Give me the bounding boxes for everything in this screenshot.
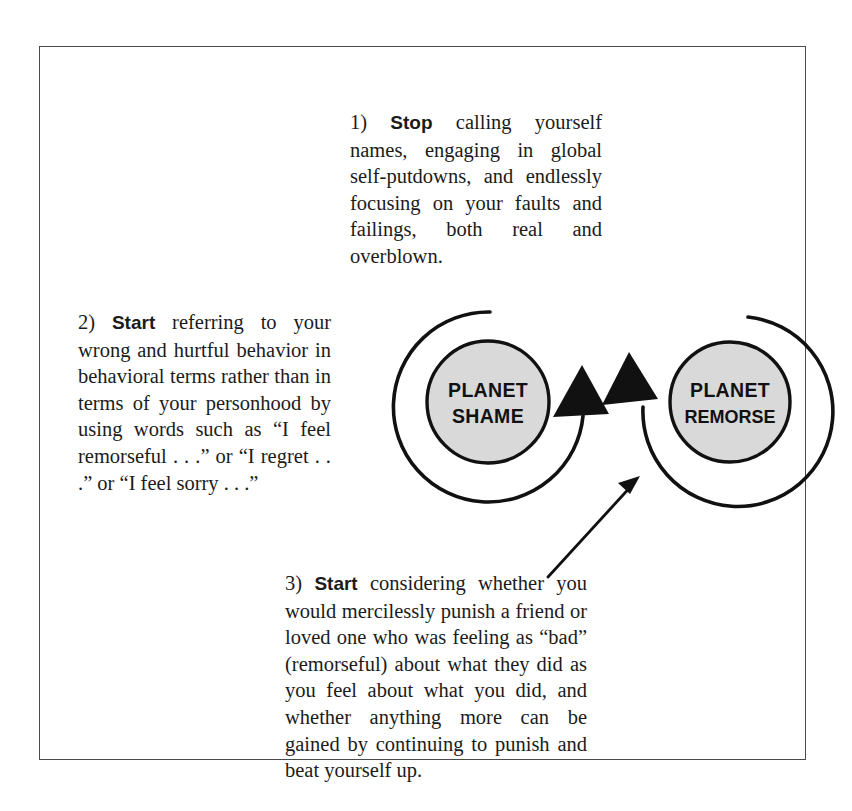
instruction-text-2: referring to your wrong and hurtful beha… — [78, 311, 331, 494]
instruction-block-3: 3) Start considering whether you would m… — [285, 570, 587, 784]
callout-arrow-head — [618, 476, 640, 494]
instruction-number-1: 1) — [350, 111, 367, 133]
planet-shame-label-line2: SHAME — [452, 405, 524, 427]
instruction-keyword-3: Start — [314, 573, 357, 594]
planet-remorse-circle — [670, 342, 790, 462]
figure-border: 1) Stop calling yourself names, engaging… — [39, 46, 806, 760]
planets-diagram: PLANET SHAME PLANET REMORSE — [370, 287, 840, 597]
arrowhead-shame-to-remorse — [553, 365, 609, 417]
callout-arrow-line — [548, 483, 634, 577]
instruction-text-1: calling yourself names, engaging in glob… — [350, 111, 602, 267]
instruction-block-1: 1) Stop calling yourself names, engaging… — [350, 109, 602, 270]
planet-shame-circle — [427, 341, 549, 463]
planet-remorse-label-line2: REMORSE — [684, 407, 775, 427]
instruction-number-3: 3) — [285, 572, 302, 594]
instruction-block-2: 2) Start referring to your wrong and hur… — [78, 309, 331, 496]
instruction-number-2: 2) — [78, 311, 95, 333]
planet-remorse-label-line1: PLANET — [690, 379, 770, 401]
instruction-keyword-1: Stop — [390, 112, 432, 133]
arrowhead-remorse-to-shame — [602, 352, 658, 405]
planet-shame-label-line1: PLANET — [448, 379, 528, 401]
instruction-text-3: considering whether you would mercilessl… — [285, 572, 587, 781]
figure-page: 1) Stop calling yourself names, engaging… — [0, 0, 852, 811]
instruction-keyword-2: Start — [112, 312, 155, 333]
